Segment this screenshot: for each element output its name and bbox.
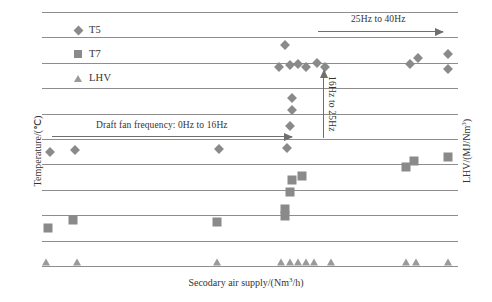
gridline: [42, 114, 458, 115]
gridline: [42, 190, 458, 191]
triangle-icon: [72, 75, 84, 82]
data-point-t7: [298, 171, 307, 180]
chart-legend: T5 T7 LHV: [72, 18, 192, 90]
square-icon: [72, 50, 84, 58]
data-point-t5: [414, 53, 424, 63]
data-point-t7: [212, 217, 221, 226]
data-point-t7: [285, 188, 294, 197]
mid-range-annotation-label: 16Hz to 25Hz: [327, 76, 337, 132]
data-point-t5: [70, 145, 80, 155]
x-axis-title: Secodary air supply/(Nm3/h): [0, 276, 492, 288]
data-point-t7: [410, 156, 419, 165]
data-point-t7: [44, 223, 53, 232]
data-point-lhv: [402, 259, 410, 266]
draft-fan-annotation-arrow: [52, 136, 292, 137]
data-point-lhv: [42, 259, 50, 266]
data-point-t7: [287, 175, 296, 184]
y-axis-right-title: LHV/(MJ/Nm3): [460, 119, 472, 183]
legend-label-t7: T7: [89, 49, 101, 60]
data-point-lhv: [310, 259, 318, 266]
high-range-annotation-label: 25Hz to 40Hz: [351, 14, 406, 24]
data-point-t7: [281, 212, 290, 221]
data-point-t5: [280, 40, 290, 50]
x-axis-line: [42, 266, 458, 267]
gridline: [42, 12, 458, 13]
draft-fan-annotation-label: Draft fan frequency: 0Hz to 16Hz: [96, 120, 228, 130]
data-point-t5: [287, 93, 297, 103]
data-point-t5: [443, 49, 453, 59]
data-point-t5: [443, 64, 453, 74]
data-point-lhv: [286, 259, 294, 266]
data-point-t5: [214, 144, 224, 154]
data-point-lhv: [294, 259, 302, 266]
data-point-lhv: [73, 259, 81, 266]
mid-range-annotation-arrow: [323, 78, 324, 138]
legend-label-lhv: LHV: [89, 73, 111, 84]
legend-item-t7: T7: [72, 42, 192, 66]
legend-item-t5: T5: [72, 18, 192, 42]
gridline: [42, 164, 458, 165]
data-point-lhv: [302, 259, 310, 266]
chart-figure: Temperature/(℃) LHV/(MJ/Nm3) Secodary ai…: [0, 0, 492, 302]
data-point-lhv: [327, 259, 335, 266]
data-point-lhv: [277, 259, 285, 266]
gridline: [42, 241, 458, 242]
data-point-lhv: [213, 259, 221, 266]
legend-item-lhv: LHV: [72, 66, 192, 90]
data-point-t5: [405, 59, 415, 69]
data-point-t7: [69, 216, 78, 225]
data-point-t5: [45, 147, 55, 157]
gridline: [42, 139, 458, 140]
data-point-t5: [282, 143, 292, 153]
data-point-t7: [443, 152, 452, 161]
legend-label-t5: T5: [89, 25, 101, 36]
diamond-icon: [72, 27, 84, 34]
high-range-annotation-arrow: [318, 31, 443, 32]
data-point-lhv: [444, 259, 452, 266]
data-point-lhv: [412, 259, 420, 266]
gridline: [42, 215, 458, 216]
data-point-t5: [285, 121, 295, 131]
